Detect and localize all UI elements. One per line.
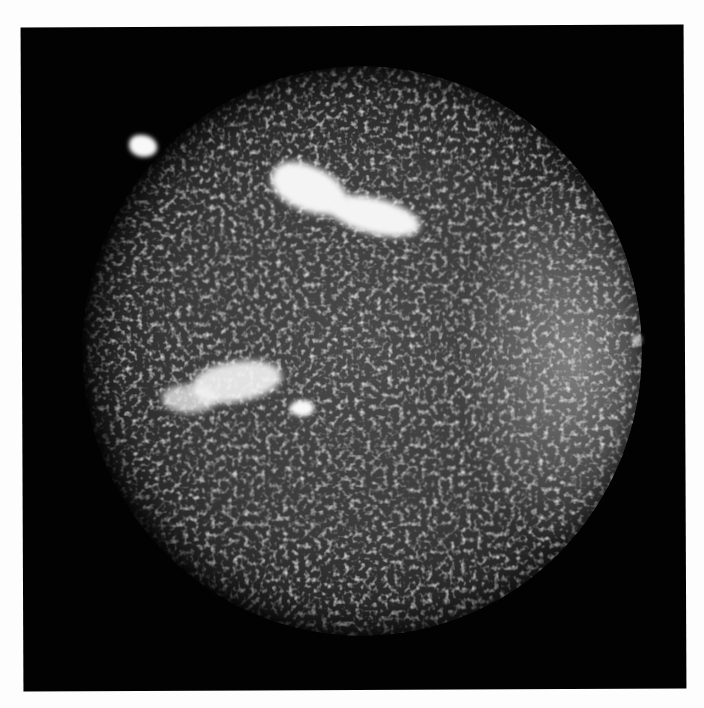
limb-bright-point xyxy=(632,335,642,345)
granulation-texture xyxy=(81,65,643,637)
western-plage-extension xyxy=(162,385,217,413)
solar-disk xyxy=(81,65,643,637)
small-plage xyxy=(290,400,314,416)
photo-frame xyxy=(21,25,687,692)
isolated-bright-patch xyxy=(129,135,157,157)
